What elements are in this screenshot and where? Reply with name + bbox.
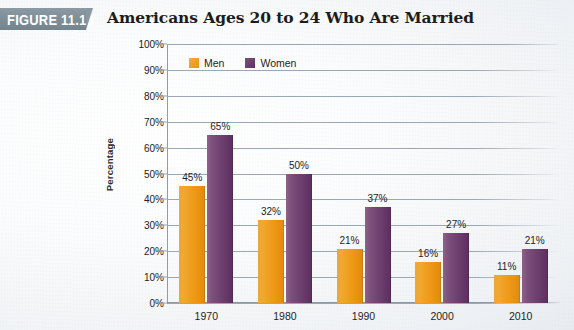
bar-men-1990: 21% xyxy=(337,249,363,303)
y-axis-tick-label: 20% xyxy=(118,246,164,257)
bar-women-1990: 37% xyxy=(365,207,391,303)
y-axis-tick-mark xyxy=(160,303,167,304)
legend-swatch-men xyxy=(189,58,199,68)
bar-value-label: 32% xyxy=(261,206,281,217)
bar-men-1980: 32% xyxy=(258,220,284,303)
y-axis-tick-mark xyxy=(160,44,167,45)
legend-item-men: Men xyxy=(189,57,224,69)
bar-value-label: 45% xyxy=(182,172,202,183)
x-axis-tick-label: 2010 xyxy=(509,310,532,322)
y-axis-tick-label: 100% xyxy=(118,39,164,50)
legend-item-women: Women xyxy=(245,57,296,69)
bar-value-label: 27% xyxy=(446,219,466,230)
y-axis-tick-mark xyxy=(160,199,167,200)
x-axis-tick-label: 2000 xyxy=(430,310,453,322)
y-axis-title: Percentage xyxy=(104,138,115,191)
bar-value-label: 21% xyxy=(525,235,545,246)
legend-label: Women xyxy=(260,57,296,69)
bar-value-label: 21% xyxy=(339,235,359,246)
bar-value-label: 11% xyxy=(497,261,516,272)
bar-women-1980: 50% xyxy=(286,174,312,304)
y-axis-tick-mark xyxy=(160,225,167,226)
bar-group: 45%65%1970 xyxy=(179,44,233,303)
bar-value-label: 50% xyxy=(289,160,309,171)
bar-group: 16%27%2000 xyxy=(415,44,469,303)
bar-men-2000: 16% xyxy=(415,262,441,303)
chart-area: Percentage 0%10%20%30%40%50%60%70%80%90%… xyxy=(0,0,574,330)
bar-women-2010: 21% xyxy=(522,249,548,303)
y-axis-tick-labels: 0%10%20%30%40%50%60%70%80%90%100% xyxy=(118,0,164,330)
x-axis-tick-label: 1970 xyxy=(195,310,218,322)
y-axis-tick-mark xyxy=(160,121,167,122)
y-axis-tick-mark xyxy=(160,69,167,70)
y-axis-tick-mark xyxy=(160,173,167,174)
x-axis-tick-label: 1980 xyxy=(273,310,296,322)
y-axis-tick-mark xyxy=(160,147,167,148)
y-axis-tick-label: 60% xyxy=(118,142,164,153)
bar-men-1970: 45% xyxy=(179,186,205,303)
gridline xyxy=(167,303,560,304)
y-axis-tick-mark xyxy=(160,277,167,278)
y-axis-tick-mark xyxy=(160,251,167,252)
bar-women-2000: 27% xyxy=(443,233,469,303)
plot-region: 45%65%197032%50%198021%37%199016%27%2000… xyxy=(167,44,560,303)
bar-value-label: 16% xyxy=(418,248,438,259)
y-axis-tick-label: 90% xyxy=(118,64,164,75)
bar-group: 32%50%1980 xyxy=(258,44,312,303)
y-axis-tick-label: 10% xyxy=(118,272,164,283)
y-axis-tick-label: 30% xyxy=(118,220,164,231)
y-axis-tick-label: 80% xyxy=(118,90,164,101)
y-axis-tick-mark xyxy=(160,95,167,96)
y-axis-tick-label: 0% xyxy=(118,298,164,309)
bar-value-label: 37% xyxy=(367,193,387,204)
x-axis-tick-label: 1990 xyxy=(352,310,375,322)
bar-group: 11%21%2010 xyxy=(494,44,548,303)
bar-men-2010: 11% xyxy=(494,275,520,303)
bar-women-1970: 65% xyxy=(207,135,233,303)
legend-label: Men xyxy=(204,57,224,69)
y-axis-tick-label: 50% xyxy=(118,168,164,179)
bar-group: 21%37%1990 xyxy=(337,44,391,303)
y-axis-tick-label: 70% xyxy=(118,116,164,127)
chart-legend: MenWomen xyxy=(189,57,308,69)
y-axis-tick-label: 40% xyxy=(118,194,164,205)
legend-swatch-women xyxy=(245,58,255,68)
bar-value-label: 65% xyxy=(210,121,230,132)
